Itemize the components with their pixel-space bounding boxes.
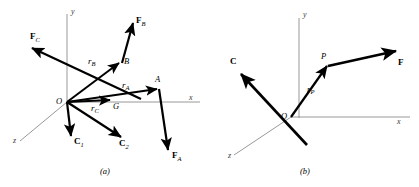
panel-a-y-axis-label: y bbox=[71, 8, 75, 16]
position-vector-rp-label: rP bbox=[307, 85, 315, 94]
resultant-force-vector-arrow bbox=[328, 51, 396, 66]
force-vector-fa-label: FA bbox=[172, 151, 181, 162]
panel-b-y-axis-label: y bbox=[303, 11, 307, 19]
panel-b-axes bbox=[234, 18, 410, 155]
resultant-couple-vector-label: C bbox=[230, 57, 237, 66]
force-vector-fa-arrow bbox=[159, 89, 168, 150]
panel-b-vectors bbox=[241, 51, 396, 145]
panel-a-axes bbox=[20, 14, 200, 141]
force-vector-fb-label: FB bbox=[136, 16, 145, 27]
position-vector-rc-label: rC bbox=[91, 104, 99, 113]
panel-b-x-axis-label: x bbox=[397, 118, 401, 126]
figure-canvas: y x z O A B G rA rB rC FA FB FC C1 C2 (a… bbox=[0, 0, 419, 187]
z-axis-line-a bbox=[20, 102, 67, 141]
panel-b-point-p-label: P bbox=[321, 52, 326, 61]
figure-vector-graphics bbox=[0, 0, 419, 187]
force-vector-fc-label: FC bbox=[30, 32, 40, 43]
panel-a-point-b-label: B bbox=[124, 57, 129, 66]
couple-vector-c1-arrow bbox=[67, 102, 71, 136]
resultant-force-vector-label: F bbox=[398, 58, 404, 67]
couple-vector-c2-label: C2 bbox=[119, 139, 129, 150]
position-vector-rb-label: rB bbox=[88, 57, 96, 66]
panel-a-vectors bbox=[32, 23, 168, 150]
panel-a-x-axis-label: x bbox=[189, 94, 193, 102]
panel-b-z-axis-label: z bbox=[228, 152, 231, 160]
z-axis-line-b bbox=[234, 117, 291, 155]
panel-b-origin-label: O bbox=[281, 112, 287, 121]
panel-b-caption: (b) bbox=[300, 167, 310, 176]
panel-a-origin-label: O bbox=[56, 97, 62, 106]
panel-a-point-a-label: A bbox=[155, 75, 160, 84]
panel-a-z-axis-label: z bbox=[13, 137, 16, 145]
couple-vector-c1-label: C1 bbox=[74, 137, 84, 148]
panel-a-caption: (a) bbox=[100, 167, 110, 176]
panel-a-point-g-label: G bbox=[113, 102, 119, 111]
position-vector-ra-label: rA bbox=[122, 81, 130, 90]
